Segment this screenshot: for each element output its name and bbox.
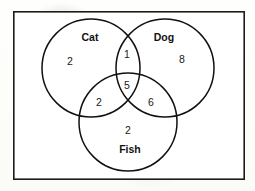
region-value-fish-only: 2 xyxy=(125,124,131,136)
venn-diagram: Cat Dog Fish 2 8 1 5 2 6 2 xyxy=(0,0,255,191)
region-value-dog-fish: 6 xyxy=(148,96,154,108)
venn-diagram-page: Cat Dog Fish 2 8 1 5 2 6 2 xyxy=(0,0,255,191)
set-label-dog: Dog xyxy=(154,31,174,43)
region-value-cat-only: 2 xyxy=(67,55,73,67)
region-value-cat-dog: 1 xyxy=(124,48,130,60)
region-value-cat-fish: 2 xyxy=(96,96,102,108)
set-label-fish: Fish xyxy=(119,143,141,155)
set-label-cat: Cat xyxy=(82,31,99,43)
region-value-dog-only: 8 xyxy=(179,53,185,65)
region-value-all-three: 5 xyxy=(124,79,130,91)
